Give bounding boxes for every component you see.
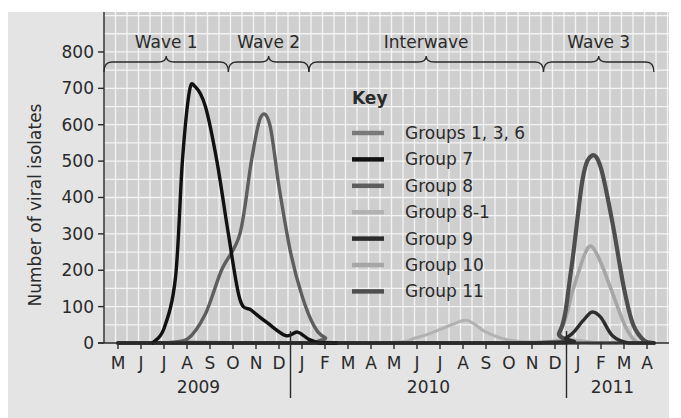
x-tick-label: J — [436, 353, 442, 373]
x-tick-label: J — [160, 353, 166, 373]
chart: 0100200300400500600700800MJJASONDJFMAMJJ… — [0, 0, 681, 418]
year-label: 2011 — [591, 377, 634, 397]
year-label: 2009 — [177, 377, 220, 397]
y-tick-label: 500 — [62, 151, 94, 171]
x-tick-label: A — [365, 353, 377, 373]
x-tick-label: M — [111, 353, 126, 373]
x-tick-label: J — [298, 353, 304, 373]
legend-label: Group 7 — [405, 149, 473, 169]
y-tick-label: 700 — [62, 78, 94, 98]
x-tick-label: J — [137, 353, 143, 373]
x-tick-label: M — [387, 353, 402, 373]
legend-label: Group 10 — [405, 255, 484, 275]
year-label: 2010 — [407, 377, 450, 397]
period-label: Interwave — [384, 32, 469, 52]
x-tick-label: A — [457, 353, 469, 373]
y-tick-label: 0 — [83, 333, 94, 353]
x-tick-label: N — [250, 353, 263, 373]
y-tick-label: 600 — [62, 115, 94, 135]
x-tick-label: J — [413, 353, 419, 373]
x-tick-label: J — [574, 353, 580, 373]
x-tick-label: F — [320, 353, 330, 373]
x-tick-label: A — [641, 353, 653, 373]
legend-label: Group 11 — [405, 281, 484, 301]
x-tick-label: O — [502, 353, 515, 373]
period-label: Wave 3 — [567, 32, 630, 52]
legend-label: Group 8-1 — [405, 202, 490, 222]
y-tick-label: 200 — [62, 260, 94, 280]
period-label: Wave 1 — [135, 32, 198, 52]
x-tick-label: F — [596, 353, 606, 373]
x-tick-label: S — [481, 353, 492, 373]
x-tick-label: D — [548, 353, 561, 373]
y-tick-label: 400 — [62, 187, 94, 207]
legend-label: Groups 1, 3, 6 — [405, 123, 525, 143]
x-tick-label: M — [341, 353, 356, 373]
y-tick-label: 100 — [62, 297, 94, 317]
period-label: Wave 2 — [237, 32, 300, 52]
x-tick-label: S — [205, 353, 216, 373]
x-tick-label: M — [617, 353, 632, 373]
x-tick-label: N — [526, 353, 539, 373]
legend-title: Key — [352, 88, 388, 108]
y-tick-label: 800 — [62, 42, 94, 62]
x-tick-label: O — [226, 353, 239, 373]
y-tick-label: 300 — [62, 224, 94, 244]
line-chart: 0100200300400500600700800MJJASONDJFMAMJJ… — [0, 0, 681, 418]
legend-label: Group 8 — [405, 176, 473, 196]
x-tick-label: D — [272, 353, 285, 373]
x-tick-label: A — [181, 353, 193, 373]
y-axis-title: Number of viral isolates — [25, 103, 45, 306]
legend-label: Group 9 — [405, 229, 473, 249]
